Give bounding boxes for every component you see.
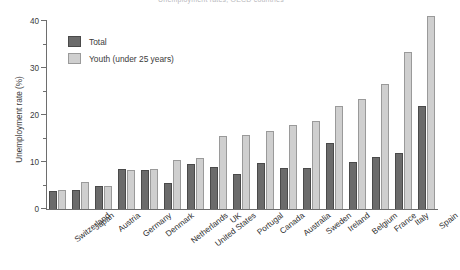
bar-youth <box>289 125 297 209</box>
y-tick-label: 0 <box>34 205 39 214</box>
bar-group <box>277 21 300 209</box>
x-category-label: Spain <box>438 211 460 231</box>
bar-youth <box>219 136 227 209</box>
bar-total <box>95 186 103 210</box>
bar-youth <box>404 52 412 209</box>
bar-total <box>326 143 334 209</box>
bar-youth <box>427 16 435 209</box>
legend-swatch-youth-icon <box>68 53 81 64</box>
y-tick-label: 20 <box>30 111 39 120</box>
chart-legend: TotalYouth (under 25 years) <box>68 36 258 70</box>
bar-youth <box>127 170 135 209</box>
bar-youth <box>150 169 158 209</box>
y-axis-title: Unemployment rate (%) <box>15 55 24 185</box>
bar-total <box>233 174 241 209</box>
y-tick-label: 30 <box>30 64 39 73</box>
bar-youth <box>266 131 274 209</box>
legend-label: Youth (under 25 years) <box>89 54 174 64</box>
legend-swatch-total-icon <box>68 36 81 47</box>
bar-group <box>346 21 369 209</box>
bar-youth <box>81 182 89 209</box>
x-category-label: Italy <box>414 211 431 227</box>
bar-youth <box>335 106 343 209</box>
bar-group <box>300 21 323 209</box>
bar-total <box>349 162 357 209</box>
bar-youth <box>104 186 112 209</box>
legend-item-youth: Youth (under 25 years) <box>68 53 258 64</box>
bar-youth <box>196 158 204 209</box>
bar-total <box>187 164 195 209</box>
x-axis-category-labels: SwitzerlandJapanAustriaGermanyDenmarkNet… <box>46 211 438 269</box>
bar-group <box>369 21 392 209</box>
bar-group <box>323 21 346 209</box>
bar-total <box>280 168 288 209</box>
bar-youth <box>58 190 66 209</box>
bar-total <box>210 167 218 209</box>
bar-youth <box>242 135 250 209</box>
legend-item-total: Total <box>68 36 258 47</box>
y-tick-label: 10 <box>30 158 39 167</box>
bar-total <box>49 191 57 209</box>
bar-group <box>46 21 69 209</box>
legend-label: Total <box>89 37 107 47</box>
bar-total <box>418 106 426 209</box>
bar-total <box>164 183 172 209</box>
bar-total <box>141 170 149 209</box>
bar-group <box>415 21 438 209</box>
bar-group <box>392 21 415 209</box>
x-axis-line <box>46 209 438 210</box>
bar-total <box>72 190 80 209</box>
bar-total <box>303 168 311 209</box>
bar-total <box>372 157 380 209</box>
bar-youth <box>173 160 181 209</box>
bar-youth <box>358 99 366 209</box>
x-category-label: Austria <box>116 211 142 234</box>
bar-total <box>395 153 403 209</box>
bar-total <box>118 169 126 209</box>
bar-youth <box>312 121 320 209</box>
bar-youth <box>381 84 389 209</box>
bar-total <box>257 163 265 209</box>
y-tick-label: 40 <box>30 17 39 26</box>
chart-title: Unemployment rates, OECD countries <box>0 0 442 4</box>
